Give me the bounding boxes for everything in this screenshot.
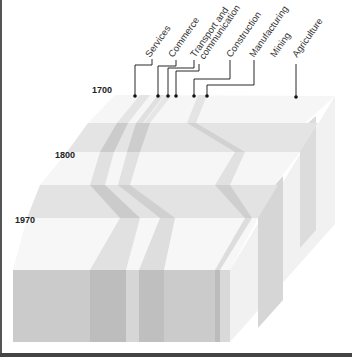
slab-1700-1800 bbox=[67, 123, 318, 152]
front-face bbox=[13, 270, 230, 342]
slab-1970 bbox=[13, 218, 258, 270]
slab-1800-1970 bbox=[27, 185, 278, 218]
leader-commerce bbox=[158, 60, 176, 96]
year-1800: 1800 bbox=[55, 150, 75, 160]
leader-manufacturing bbox=[207, 60, 254, 96]
year-1700: 1700 bbox=[92, 85, 112, 95]
leader-lines bbox=[135, 59, 296, 96]
leader-transport bbox=[168, 60, 194, 96]
slab-1700 bbox=[88, 95, 335, 123]
leader-services bbox=[135, 59, 152, 96]
diagram-frame: Services Commerce Transport and communic… bbox=[0, 0, 352, 357]
leader-communication bbox=[176, 64, 199, 96]
label-agriculture: Agriculture bbox=[290, 16, 325, 60]
slab-1800 bbox=[40, 152, 300, 185]
year-1970: 1970 bbox=[15, 215, 35, 225]
block-diagram: Services Commerce Transport and communic… bbox=[0, 0, 352, 357]
